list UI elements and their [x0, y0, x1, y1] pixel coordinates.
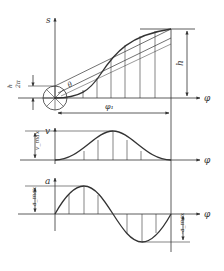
motion-diagram: s φ h θ φ₁ h 2π v φ v_max a φ a_max -a_m…	[0, 0, 224, 271]
vmax-label: v_max	[33, 130, 41, 150]
s-axis-label: s	[46, 15, 51, 25]
acceleration-plot	[18, 178, 200, 242]
svg-text:2π: 2π	[14, 79, 21, 89]
h-label: h	[175, 60, 185, 66]
v-phi-label: φ	[204, 155, 211, 165]
v-axis-label: v	[45, 126, 50, 136]
neg-amax-label: -a_max	[178, 212, 186, 234]
a-axis-label: a	[45, 176, 50, 186]
amax-label: a_max	[30, 186, 38, 206]
diagonal-line-mid	[58, 38, 171, 93]
a-phi-label: φ	[204, 209, 211, 219]
small-h-label: h 2π	[6, 79, 21, 89]
diagonal-line-low	[61, 44, 171, 96]
svg-text:h: h	[6, 84, 13, 88]
displacement-hatch	[83, 31, 155, 98]
velocity-hatch	[84, 131, 141, 160]
phi-axis-label: φ	[204, 93, 211, 103]
phi1-label: φ₁	[105, 102, 114, 111]
